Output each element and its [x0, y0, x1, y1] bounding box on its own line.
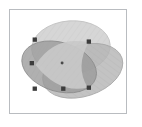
screenshot-root	[0, 0, 142, 127]
marker-bottom-left	[33, 87, 37, 91]
marker-top-left	[33, 37, 37, 41]
ellipse-diagram-canvas	[10, 10, 126, 113]
marker-top-right	[87, 39, 91, 43]
center-dot	[61, 62, 64, 65]
marker-bottom-right	[87, 86, 91, 90]
marker-bottom-mid	[61, 87, 65, 91]
marker-mid-left	[30, 61, 34, 65]
figure-frame	[9, 9, 127, 114]
